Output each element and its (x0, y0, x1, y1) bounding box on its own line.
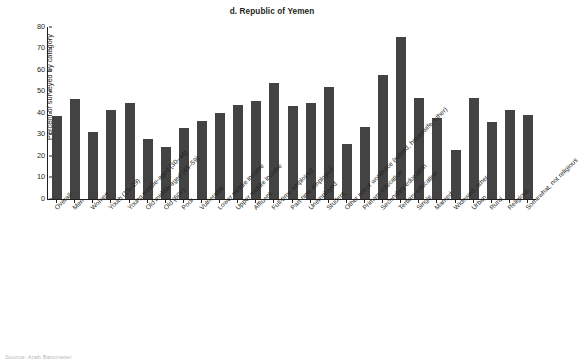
y-tick-10: 10 (48, 176, 49, 177)
y-tick-label: 10 (37, 172, 45, 181)
source-note: Source: Arab Barometer. (5, 354, 73, 360)
x-axis-labels: OverallMenWomenYouth (15–29)Young middle… (0, 0, 544, 164)
y-tick-label: 0 (41, 194, 45, 203)
